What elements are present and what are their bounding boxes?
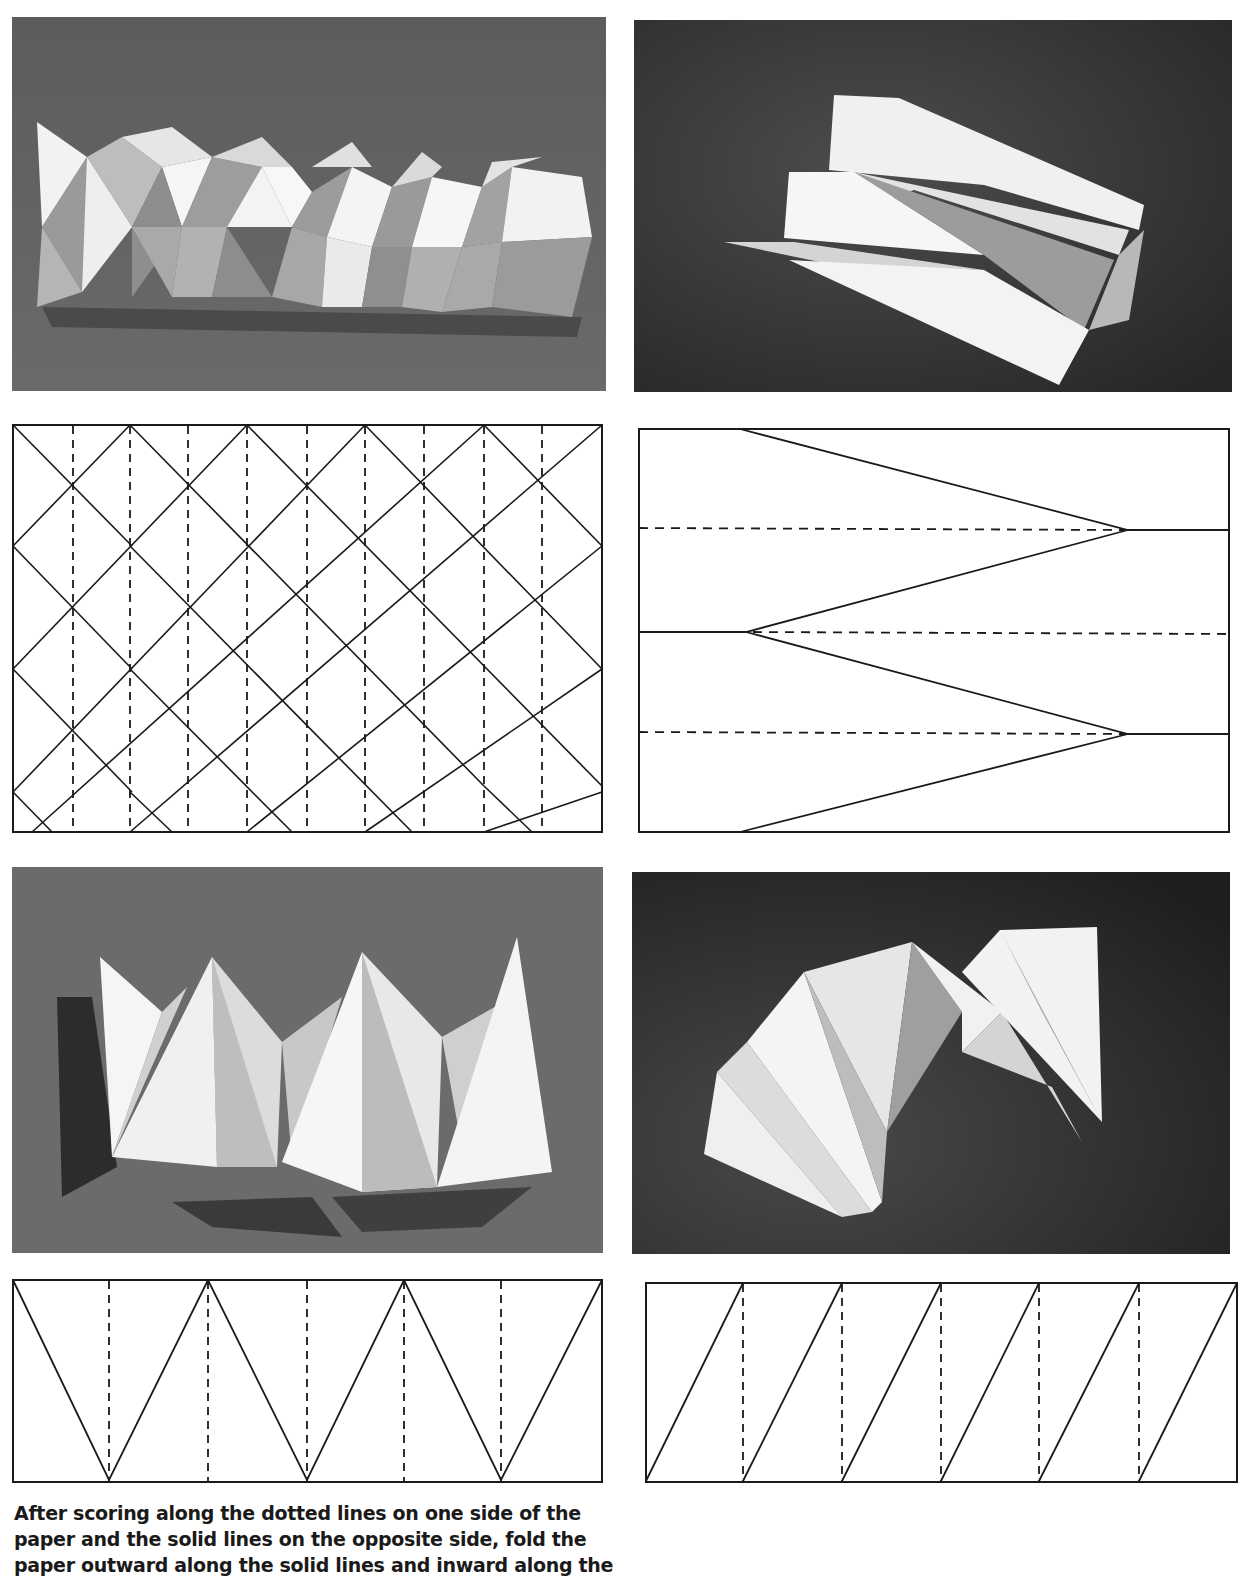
crease-pattern-chevron — [638, 428, 1230, 833]
diagram-zigzag — [12, 1279, 603, 1483]
caption: After scoring along the dotted lines on … — [14, 1500, 614, 1578]
photo-triangular-peaks — [12, 867, 603, 1253]
crease-pattern-slanted — [645, 1282, 1238, 1483]
photo-stepped-pleat — [634, 20, 1232, 392]
diagram-slanted — [645, 1282, 1238, 1483]
photo-triangular-peaks-image — [12, 867, 603, 1253]
photo-diamond-column-image — [12, 17, 606, 391]
photo-stepped-pleat-image — [634, 20, 1232, 392]
photo-fan-arch-image — [632, 872, 1230, 1254]
crease-pattern-zigzag — [12, 1279, 603, 1483]
photo-diamond-column — [12, 17, 606, 391]
caption-line-3: paper outward along the solid lines and … — [14, 1552, 614, 1578]
photo-fan-arch — [632, 872, 1230, 1254]
diagram-diamond-grid — [12, 424, 603, 833]
caption-line-1: After scoring along the dotted lines on … — [14, 1500, 614, 1526]
crease-pattern-diamond — [12, 424, 603, 833]
caption-line-2: paper and the solid lines on the opposit… — [14, 1526, 614, 1552]
diagram-chevron — [638, 428, 1230, 833]
